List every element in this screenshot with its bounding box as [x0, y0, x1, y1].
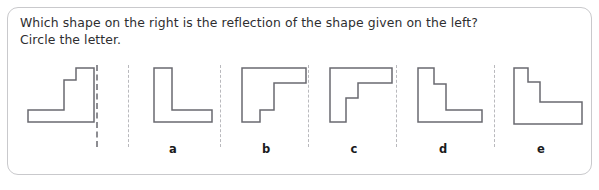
option-cell-c[interactable]: c — [316, 62, 406, 157]
option-shape-e-svg[interactable] — [502, 62, 592, 136]
option-label-c[interactable]: c — [334, 142, 374, 156]
prompt-line-2: Circle the letter. — [20, 31, 560, 48]
option-cell-a[interactable]: a — [136, 62, 226, 157]
option-label-a[interactable]: a — [153, 142, 193, 156]
worksheet-card: Which shape on the right is the reflecti… — [0, 0, 599, 190]
option-label-e[interactable]: e — [521, 142, 561, 156]
option-label-d[interactable]: d — [423, 142, 463, 156]
option-shape-a — [154, 68, 212, 122]
divider-line-5 — [494, 65, 495, 147]
divider-line-1 — [128, 65, 129, 147]
option-shape-a-svg[interactable] — [136, 62, 226, 134]
prompt-line-1: Which shape on the right is the reflecti… — [20, 14, 560, 31]
option-cell-e[interactable]: e — [502, 62, 592, 157]
reference-shape-cell — [22, 62, 112, 157]
option-cell-b[interactable]: b — [228, 62, 318, 157]
prompt-block: Which shape on the right is the reflecti… — [20, 14, 560, 48]
option-label-b[interactable]: b — [246, 142, 286, 156]
option-shape-c — [330, 68, 392, 122]
option-shape-b-svg[interactable] — [228, 62, 318, 134]
option-shape-e — [514, 68, 582, 124]
option-shape-d — [418, 68, 482, 122]
option-cell-d[interactable]: d — [404, 62, 494, 157]
option-shape-c-svg[interactable] — [316, 62, 406, 134]
reference-shape — [28, 68, 94, 122]
option-shape-d-svg[interactable] — [404, 62, 494, 134]
option-shape-b — [242, 68, 306, 122]
reference-shape-svg — [22, 62, 112, 134]
shapes-strip: a b c d e — [0, 62, 599, 157]
